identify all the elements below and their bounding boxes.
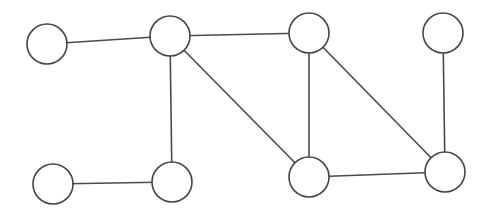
node-F [152, 162, 192, 202]
node-G [289, 157, 329, 197]
node-B [150, 16, 190, 56]
edge-B-F [170, 36, 172, 182]
node-H [425, 152, 465, 192]
graph-diagram [0, 0, 487, 216]
node-D [423, 13, 463, 53]
node-E [33, 164, 73, 204]
node-C [289, 13, 329, 53]
edge-B-G [170, 36, 309, 177]
edge-C-H [309, 33, 445, 172]
edges-layer [47, 33, 445, 184]
edge-B-C [170, 33, 309, 36]
node-A [27, 24, 67, 64]
edge-D-H [443, 33, 445, 172]
